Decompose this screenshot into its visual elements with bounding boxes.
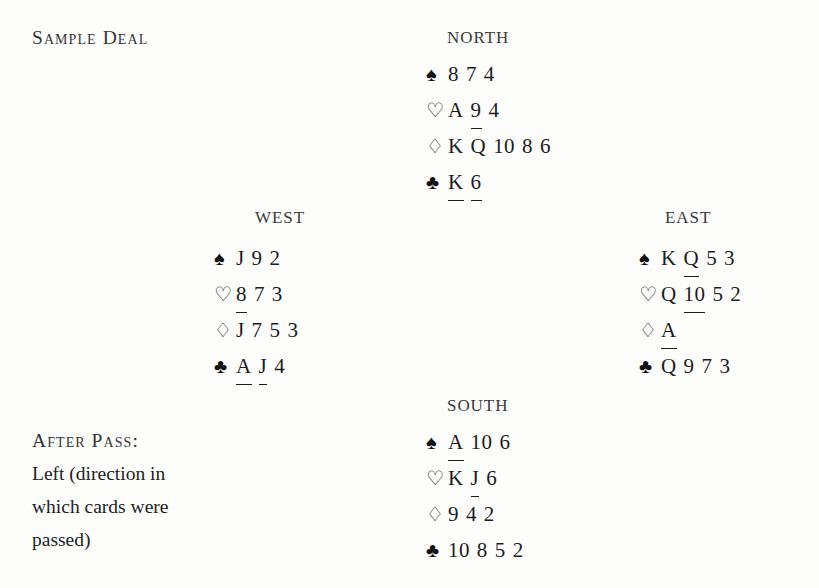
suit-row-hearts: ♡Q1052 bbox=[639, 276, 741, 312]
suit-row-hearts: ♡873 bbox=[214, 276, 298, 312]
card-rank: 4 bbox=[466, 496, 477, 532]
card-rank: 7 bbox=[252, 312, 263, 348]
suit-row-clubs: ♣Q973 bbox=[639, 348, 741, 384]
cards-south-diamonds: 942 bbox=[448, 502, 495, 526]
suit-row-diamonds: ♢A bbox=[639, 312, 741, 348]
card-rank: 5 bbox=[712, 276, 723, 312]
card-rank: Q bbox=[661, 348, 677, 384]
diamond-icon: ♢ bbox=[426, 496, 448, 532]
card-rank: 10 bbox=[684, 276, 706, 313]
card-rank: J bbox=[236, 312, 245, 348]
cards-west-clubs: AJ4 bbox=[236, 354, 285, 378]
caption-line: Left (direction in bbox=[32, 457, 282, 490]
card-rank: 5 bbox=[495, 532, 506, 568]
card-rank: Q bbox=[471, 128, 487, 164]
suit-row-diamonds: ♢J753 bbox=[214, 312, 298, 348]
suit-row-clubs: ♣10852 bbox=[426, 532, 524, 568]
suit-row-diamonds: ♢942 bbox=[426, 496, 524, 532]
card-rank: 4 bbox=[489, 92, 500, 128]
card-rank: K bbox=[661, 240, 677, 276]
card-rank: J bbox=[236, 240, 245, 276]
heart-icon: ♡ bbox=[214, 276, 236, 312]
seat-label-west: WEST bbox=[255, 208, 305, 228]
diamond-icon: ♢ bbox=[214, 312, 236, 348]
card-rank: 7 bbox=[702, 348, 713, 384]
card-rank: J bbox=[471, 460, 480, 497]
card-rank: 6 bbox=[499, 424, 510, 460]
spade-icon: ♠ bbox=[639, 240, 661, 276]
card-rank: 4 bbox=[274, 348, 285, 384]
card-rank: 9 bbox=[471, 92, 482, 129]
hand-north: ♠874 ♡A94 ♢KQ1086 ♣K6 bbox=[426, 56, 551, 200]
card-rank: 3 bbox=[272, 276, 283, 312]
cards-east-hearts: Q1052 bbox=[661, 282, 741, 306]
card-rank: 8 bbox=[522, 128, 533, 164]
seat-label-south: SOUTH bbox=[447, 396, 508, 416]
heart-icon: ♡ bbox=[639, 276, 661, 312]
card-rank: 4 bbox=[484, 56, 495, 92]
caption-line: passed) bbox=[32, 523, 282, 556]
cards-south-clubs: 10852 bbox=[448, 538, 524, 562]
card-rank: 10 bbox=[471, 424, 493, 460]
card-rank: A bbox=[661, 312, 677, 349]
club-icon: ♣ bbox=[426, 532, 448, 568]
spade-icon: ♠ bbox=[214, 240, 236, 276]
card-rank: Q bbox=[684, 240, 700, 277]
card-rank: 2 bbox=[484, 496, 495, 532]
suit-row-clubs: ♣AJ4 bbox=[214, 348, 298, 384]
heart-icon: ♡ bbox=[426, 460, 448, 496]
suit-row-hearts: ♡A94 bbox=[426, 92, 551, 128]
suit-row-spades: ♠A106 bbox=[426, 424, 524, 460]
cards-west-diamonds: J753 bbox=[236, 318, 298, 342]
card-rank: 5 bbox=[270, 312, 281, 348]
card-rank: 6 bbox=[471, 164, 482, 201]
card-rank: 9 bbox=[252, 240, 263, 276]
cards-north-clubs: K6 bbox=[448, 170, 482, 194]
suit-row-clubs: ♣K6 bbox=[426, 164, 551, 200]
card-rank: K bbox=[448, 164, 464, 201]
spade-icon: ♠ bbox=[426, 56, 448, 92]
cards-east-clubs: Q973 bbox=[661, 354, 730, 378]
seat-label-north: NORTH bbox=[447, 28, 509, 48]
card-rank: 8 bbox=[448, 56, 459, 92]
card-rank: J bbox=[259, 348, 268, 385]
card-rank: 8 bbox=[236, 276, 247, 313]
card-rank: A bbox=[448, 424, 464, 461]
card-rank: 10 bbox=[493, 128, 515, 164]
heart-icon: ♡ bbox=[426, 92, 448, 128]
seat-label-east: EAST bbox=[665, 208, 711, 228]
club-icon: ♣ bbox=[426, 164, 448, 200]
club-icon: ♣ bbox=[639, 348, 661, 384]
card-rank: 6 bbox=[486, 460, 497, 496]
card-rank: A bbox=[448, 92, 464, 128]
cards-east-diamonds: A bbox=[661, 318, 677, 342]
card-rank: 9 bbox=[448, 496, 459, 532]
cards-south-spades: A106 bbox=[448, 430, 510, 454]
card-rank: 3 bbox=[719, 348, 730, 384]
suit-row-spades: ♠874 bbox=[426, 56, 551, 92]
cards-west-spades: J92 bbox=[236, 246, 280, 270]
club-icon: ♣ bbox=[214, 348, 236, 384]
card-rank: 10 bbox=[448, 532, 470, 568]
cards-south-hearts: KJ6 bbox=[448, 466, 497, 490]
card-rank: 8 bbox=[477, 532, 488, 568]
cards-west-hearts: 873 bbox=[236, 282, 283, 306]
caption-line: which cards were bbox=[32, 490, 282, 523]
caption-heading: After Pass: bbox=[32, 424, 282, 457]
card-rank: Q bbox=[661, 276, 677, 312]
card-rank: 2 bbox=[730, 276, 741, 312]
hand-west: ♠J92 ♡873 ♢J753 ♣AJ4 bbox=[214, 240, 298, 384]
diamond-icon: ♢ bbox=[426, 128, 448, 164]
after-pass-caption: After Pass: Left (direction in which car… bbox=[32, 424, 282, 556]
cards-north-hearts: A94 bbox=[448, 98, 499, 122]
card-rank: K bbox=[448, 460, 464, 496]
card-rank: A bbox=[236, 348, 252, 385]
card-rank: K bbox=[448, 128, 464, 164]
card-rank: 3 bbox=[724, 240, 735, 276]
suit-row-diamonds: ♢KQ1086 bbox=[426, 128, 551, 164]
cards-north-diamonds: KQ1086 bbox=[448, 134, 551, 158]
cards-east-spades: KQ53 bbox=[661, 246, 735, 270]
suit-row-spades: ♠KQ53 bbox=[639, 240, 741, 276]
card-rank: 5 bbox=[706, 240, 717, 276]
card-rank: 6 bbox=[540, 128, 551, 164]
